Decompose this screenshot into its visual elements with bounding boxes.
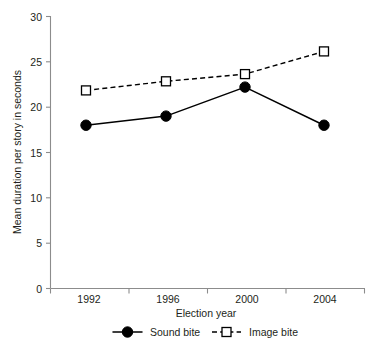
chart-figure: 30 25 20 15 10 5 0 1992 1996 2000 2004 E… [0,0,379,346]
legend-entry-sound-bite: Sound bite [113,326,200,338]
y-tick-label: 30 [30,11,42,23]
y-tick-label: 0 [36,283,42,295]
legend-entry-image-bite: Image bite [212,326,298,338]
chart-legend: Sound bite Image bite [113,326,298,338]
y-axis-title: Mean duration per story in seconds [11,70,23,234]
series-image-bite [82,47,329,95]
sound-bite-marker-2004 [319,120,329,130]
image-bite-marker-1992 [82,86,91,95]
image-bite-line [86,51,324,90]
y-tick-label: 10 [30,192,42,204]
sound-bite-line [86,87,324,125]
image-bite-marker-2000 [241,70,250,79]
y-axis-tick-labels: 30 25 20 15 10 5 0 [30,11,42,295]
legend-sound-bite-marker [122,327,132,337]
x-tick-label: 1996 [156,293,180,305]
y-tick-label: 5 [36,237,42,249]
sound-bite-marker-1992 [81,120,91,130]
sound-bite-marker-2000 [240,82,250,92]
y-tick-label: 25 [30,56,42,68]
x-tick-label: 2004 [313,293,337,305]
y-tick-label: 20 [30,101,42,113]
image-bite-marker-2004 [320,47,329,56]
x-tick-label: 1992 [77,293,101,305]
y-tick-label: 15 [30,147,42,159]
image-bite-marker-1996 [162,77,171,86]
x-tick-label: 2000 [235,293,259,305]
y-axis-ticks [46,17,51,289]
legend-image-bite-marker [222,328,231,337]
legend-label-image-bite: Image bite [249,326,298,338]
legend-label-sound-bite: Sound bite [150,326,200,338]
x-axis-tick-labels: 1992 1996 2000 2004 [77,293,337,305]
x-axis-title: Election year [176,307,237,319]
line-chart: 30 25 20 15 10 5 0 1992 1996 2000 2004 E… [0,0,379,346]
series-sound-bite [81,82,329,130]
sound-bite-marker-1996 [161,111,171,121]
